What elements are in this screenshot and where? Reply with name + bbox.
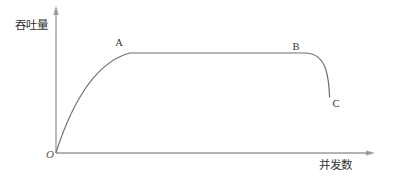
y-axis-label: 吞吐量 — [15, 18, 48, 32]
y-axis-arrow-icon — [53, 6, 58, 15]
origin-label: O — [46, 148, 54, 160]
throughput-curve — [56, 53, 330, 153]
point-b-label: B — [292, 41, 299, 52]
point-c-label: C — [332, 98, 339, 109]
point-a-label: A — [115, 37, 123, 48]
chart-canvas: 吞吐量 并发数 O A B C — [0, 0, 397, 181]
x-axis-label: 并发数 — [319, 158, 353, 172]
x-axis-arrow-icon — [366, 150, 375, 155]
throughput-concurrency-chart: 吞吐量 并发数 O A B C — [0, 0, 397, 181]
